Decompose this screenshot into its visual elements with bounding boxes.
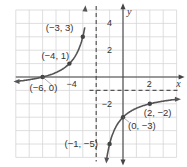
x-tick-label: 2 xyxy=(147,79,152,89)
point-label: (−1, −5) xyxy=(65,138,98,149)
y-axis-label: y xyxy=(126,6,132,17)
point-label: (0, −3) xyxy=(128,120,156,131)
y-axis-arrow-down-icon xyxy=(121,159,126,165)
data-point xyxy=(67,61,71,65)
x-tick-label: −4 xyxy=(66,79,76,89)
point-label: (−6, 0) xyxy=(30,82,58,93)
y-axis-arrow-icon xyxy=(121,3,126,9)
point-label: (−4, 1) xyxy=(41,50,69,61)
data-point xyxy=(148,102,152,106)
point-label: (2, −2) xyxy=(144,107,172,118)
asymptotes xyxy=(90,6,180,161)
y-tick-label: 4 xyxy=(107,18,112,28)
curve-arrow-icon xyxy=(104,157,109,163)
curve-arrow-icon xyxy=(175,97,181,102)
y-tick-label: −2 xyxy=(102,99,112,109)
rational-function-graph: xy (−6, 0)(−4, 1)(−3, 3)(−1, −5)(0, −3)(… xyxy=(0,0,187,167)
point-label: (−3, 3) xyxy=(46,22,74,33)
curve-arrow-icon xyxy=(82,5,87,11)
curve-arrow-icon xyxy=(13,79,19,84)
y-tick-label: 2 xyxy=(107,45,112,55)
x-axis-label: x xyxy=(175,78,181,89)
data-point xyxy=(81,35,85,39)
